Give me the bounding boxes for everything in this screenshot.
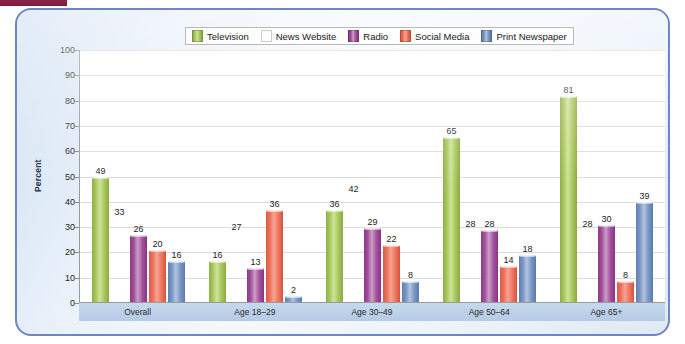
bar[interactable]: 8 — [402, 281, 419, 302]
bar-value-label: 16 — [212, 250, 222, 260]
bar-slot: 28 — [462, 50, 479, 302]
bar-value-label: 2 — [291, 285, 296, 295]
legend-swatch-icon — [261, 30, 272, 42]
legend-item: Television — [192, 30, 249, 42]
bar-slot: 8 — [617, 50, 634, 302]
bar-value-label: 20 — [152, 239, 162, 249]
bar-slot: 18 — [519, 50, 536, 302]
bar[interactable]: 8 — [617, 281, 634, 302]
bar[interactable]: 65 — [443, 137, 460, 302]
bar-slot: 27 — [228, 50, 245, 302]
bar-cap — [617, 280, 634, 283]
bar[interactable]: 18 — [519, 255, 536, 302]
bar-value-label: 33 — [114, 207, 124, 217]
legend-item: Print Newspaper — [481, 30, 566, 42]
bar[interactable]: 2 — [285, 296, 302, 302]
bar-cap — [579, 229, 596, 232]
legend-label: Social Media — [415, 31, 469, 42]
bar[interactable]: 28 — [579, 230, 596, 302]
bar-value-label: 36 — [269, 199, 279, 209]
bar-value-label: 28 — [582, 219, 592, 229]
bar-cap — [519, 254, 536, 257]
bar[interactable]: 36 — [326, 210, 343, 302]
bar-group: 364229228 — [314, 50, 431, 302]
bar[interactable]: 16 — [168, 261, 185, 302]
bar[interactable]: 28 — [462, 230, 479, 302]
y-tick-label: 30 — [41, 222, 75, 232]
x-tick-label: Age 65+ — [548, 303, 665, 321]
y-tick-label: 100 — [41, 45, 75, 55]
bar[interactable]: 13 — [247, 268, 264, 302]
bar[interactable]: 14 — [500, 266, 517, 302]
bar-cap — [168, 260, 185, 263]
bar-slot: 2 — [285, 50, 302, 302]
bar-value-label: 8 — [623, 270, 628, 280]
bar-cap — [228, 232, 245, 235]
bar-value-label: 8 — [408, 270, 413, 280]
bar[interactable]: 22 — [383, 245, 400, 302]
bar-cap — [560, 95, 577, 98]
bar[interactable]: 30 — [598, 225, 615, 302]
bar-value-label: 42 — [348, 184, 358, 194]
bar-cap — [209, 260, 226, 263]
bar-slot: 81 — [560, 50, 577, 302]
bar-cap — [326, 209, 343, 212]
y-tick-label: 70 — [41, 121, 75, 131]
chart-legend: TelevisionNews WebsiteRadioSocial MediaP… — [185, 27, 574, 45]
chart-frame: TelevisionNews WebsiteRadioSocial MediaP… — [15, 8, 670, 336]
bar-slot: 16 — [168, 50, 185, 302]
bar-slot: 39 — [636, 50, 653, 302]
legend-label: Radio — [363, 31, 388, 42]
bar[interactable]: 42 — [345, 195, 362, 302]
y-tick-label: 50 — [41, 172, 75, 182]
legend-item: News Website — [261, 30, 337, 42]
top-accent-strip — [0, 0, 67, 6]
bar-slot: 30 — [598, 50, 615, 302]
bar-value-label: 13 — [250, 257, 260, 267]
bar-slot: 28 — [579, 50, 596, 302]
bar-value-label: 22 — [386, 234, 396, 244]
bar[interactable]: 49 — [92, 177, 109, 302]
bar-cap — [598, 224, 615, 227]
bar[interactable]: 81 — [560, 96, 577, 302]
bar-cap — [462, 229, 479, 232]
y-tick-label: 0 — [41, 298, 75, 308]
bar-cap — [443, 136, 460, 139]
bar[interactable]: 33 — [111, 218, 128, 302]
bar-cap — [285, 295, 302, 298]
bar[interactable]: 28 — [481, 230, 498, 302]
bar-value-label: 14 — [503, 255, 513, 265]
bar-slot: 8 — [402, 50, 419, 302]
bar-slot: 22 — [383, 50, 400, 302]
bar-value-label: 65 — [446, 126, 456, 136]
bar-slot: 42 — [345, 50, 362, 302]
bar-value-label: 81 — [563, 85, 573, 95]
bar-group: 162713362 — [197, 50, 314, 302]
bar-slot: 65 — [443, 50, 460, 302]
bar[interactable]: 16 — [209, 261, 226, 302]
bar[interactable]: 20 — [149, 250, 166, 302]
bar-value-label: 18 — [522, 244, 532, 254]
bar[interactable]: 36 — [266, 210, 283, 302]
legend-swatch-icon — [400, 30, 411, 42]
bar-slot: 26 — [130, 50, 147, 302]
bar[interactable]: 27 — [228, 233, 245, 302]
y-tick-label: 10 — [41, 273, 75, 283]
bar-value-label: 26 — [133, 224, 143, 234]
bar-cap — [149, 249, 166, 252]
bar-group: 6528281418 — [431, 50, 548, 302]
bar-slot: 33 — [111, 50, 128, 302]
y-tick-label: 40 — [41, 197, 75, 207]
bar[interactable]: 29 — [364, 228, 381, 302]
bar-value-label: 36 — [329, 199, 339, 209]
bar-value-label: 16 — [171, 250, 181, 260]
y-tick-label: 20 — [41, 247, 75, 257]
bar-cap — [383, 244, 400, 247]
legend-swatch-icon — [192, 30, 203, 42]
bar-group: 812830839 — [548, 50, 665, 302]
bar[interactable]: 26 — [130, 235, 147, 302]
legend-label: News Website — [276, 31, 337, 42]
bar[interactable]: 39 — [636, 202, 653, 302]
legend-item: Social Media — [400, 30, 469, 42]
bar-value-label: 28 — [484, 219, 494, 229]
